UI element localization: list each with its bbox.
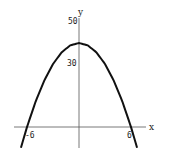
y-axis-label: y <box>77 7 84 17</box>
x-axis-label: x <box>149 122 154 132</box>
x-tick-label-6: 6 <box>127 131 132 140</box>
y-tick-label-50: 50 <box>68 17 78 26</box>
x-tick-label-neg6: -6 <box>25 131 35 140</box>
parabola-chart: x y 50 30 -6 6 <box>0 0 169 158</box>
y-tick-label-30: 30 <box>67 59 77 68</box>
